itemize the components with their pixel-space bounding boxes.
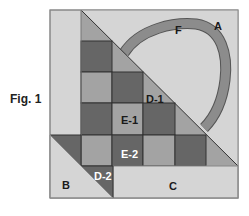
- label-e1: E-1: [121, 114, 138, 126]
- square-dark: [175, 135, 206, 166]
- label-f: F: [175, 24, 182, 36]
- square-medium: [81, 72, 112, 103]
- label-d1: D-1: [146, 93, 164, 105]
- square-dark: [81, 41, 112, 72]
- label-b: B: [62, 179, 70, 191]
- label-d2: D-2: [94, 170, 112, 182]
- square-dark: [143, 103, 175, 135]
- label-c: C: [169, 180, 177, 192]
- label-a: A: [214, 20, 222, 32]
- label-e2: E-2: [121, 148, 138, 160]
- square-medium: [81, 135, 112, 166]
- square-dark: [112, 72, 143, 103]
- square-medium: [143, 135, 175, 166]
- quilt-block-diagram: A F D-1 E-1 E-2 D-2 B C: [0, 0, 249, 216]
- square-dark: [81, 103, 112, 135]
